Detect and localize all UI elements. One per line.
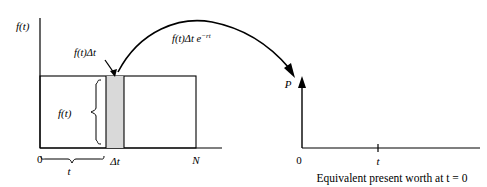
delta-t-strip-fill — [106, 76, 124, 148]
continuous-cash-flow-diagram: f(t) f(t) f(t)Δt t 0 Δt N f(t)Δt e−rt P — [0, 0, 487, 187]
left-y-axis-label: f(t) — [16, 20, 30, 33]
height-brace-label: f(t) — [58, 107, 72, 120]
discount-arrow-label-exponent: −rt — [201, 32, 211, 40]
figure-caption: Equivalent present worth at t = 0 — [317, 172, 468, 185]
left-x-tick-N: N — [191, 154, 200, 166]
left-x-tick-0: 0 — [37, 153, 43, 165]
present-worth-label: P — [284, 78, 292, 90]
height-brace — [91, 80, 101, 144]
discount-arrow-label-base: f(t)Δt e — [172, 33, 202, 45]
strip-label: f(t)Δt — [74, 47, 97, 59]
present-worth-arrow-head — [298, 76, 306, 88]
discount-arrow-curve — [118, 21, 289, 72]
right-x-tick-t: t — [376, 155, 380, 167]
discount-arrow-label: f(t)Δt e−rt — [172, 32, 212, 45]
diagram-canvas: f(t) f(t) f(t)Δt t 0 Δt N f(t)Δt e−rt P — [0, 0, 487, 187]
right-x-tick-0: 0 — [296, 154, 302, 166]
span-brace — [41, 156, 104, 163]
left-x-tick-delta-t: Δt — [109, 155, 120, 167]
span-brace-label: t — [67, 165, 71, 177]
